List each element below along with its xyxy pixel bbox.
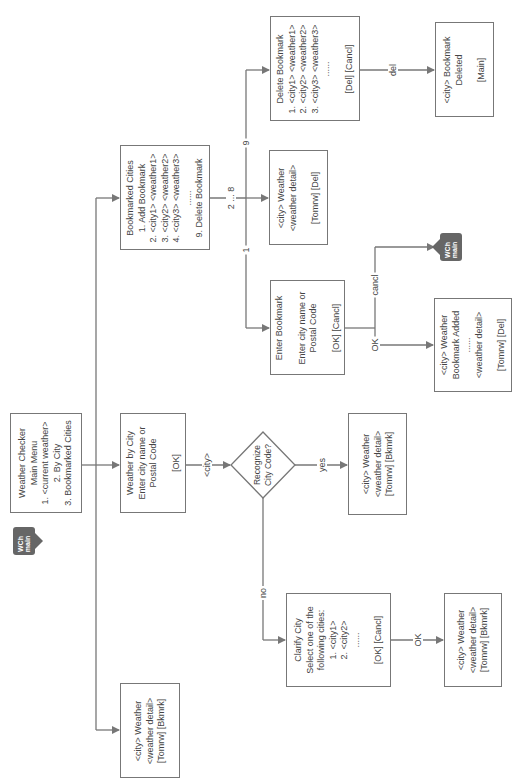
text-line: Enter city name or bbox=[296, 291, 308, 364]
text-line: Enter Bookmark bbox=[274, 291, 286, 364]
main-menu-box: Weather Checker Main Menu 1. <current we… bbox=[10, 413, 82, 513]
text-line: 9. Delete Bookmark bbox=[194, 153, 206, 242]
return-to-main-icon: WCh main bbox=[432, 232, 462, 262]
text-line: [Tomrw] [Bkmrk] bbox=[383, 431, 395, 498]
text-line: 3. <city2> <weather2> bbox=[159, 153, 171, 242]
text-line: 4. <city3> <weather3> bbox=[171, 153, 183, 242]
weather-by-city-box: Weather by City Enter city name or Posta… bbox=[120, 413, 186, 513]
text-line: <city> Bookmark bbox=[442, 36, 454, 103]
text-line: [OK] [Cancl] bbox=[373, 606, 385, 674]
text-line: <city> Weather bbox=[439, 311, 451, 380]
text-line bbox=[285, 291, 296, 364]
text-line: [Tomrw] [Del] bbox=[496, 311, 508, 380]
text-line: 1. <city1> bbox=[327, 606, 339, 674]
text-line: Postal Code bbox=[148, 426, 160, 499]
text-line: <city> Weather bbox=[276, 164, 288, 231]
text-line: [OK] bbox=[170, 426, 182, 499]
clarify-city-box: Clarify City Select one of the following… bbox=[286, 593, 391, 687]
text-line: [Main] bbox=[476, 36, 488, 103]
text-line: ...... bbox=[462, 311, 474, 380]
edge-label-del: del bbox=[388, 62, 398, 78]
edge-label-yes: yes bbox=[317, 456, 327, 474]
text-line: <weather detail> bbox=[372, 431, 384, 498]
edge-label-ok-clarify: OK bbox=[413, 631, 423, 648]
text-line: Main Menu bbox=[29, 420, 41, 506]
bookmarked-cities-box: Bookmarked Cities 1. Add Bookmark 2. <ci… bbox=[120, 145, 210, 250]
text-line: [Tomrw] [Bkmrk] bbox=[156, 697, 168, 764]
text-line: <weather detail> bbox=[144, 697, 156, 764]
text-line: Postal Code bbox=[308, 291, 320, 364]
text-line: 1. <city1> <weather1> bbox=[287, 24, 299, 113]
city-weather-ok-box: <city> Weather <weather detail> [Tomrw] … bbox=[444, 593, 502, 687]
icon-text-top: WCh bbox=[17, 531, 24, 557]
text-line: Recognize bbox=[252, 444, 263, 486]
text-line: Weather by City bbox=[125, 426, 137, 499]
text-line: 3. <city3> <weather3> bbox=[310, 24, 322, 113]
text-line: 2. <city2> bbox=[339, 606, 351, 674]
bookmark-added-box: <city> Weather Bookmark Added ...... <we… bbox=[434, 298, 512, 392]
edge-label-city: <city> bbox=[202, 451, 212, 479]
text-line: <city> Weather bbox=[360, 431, 372, 498]
text-line: [Tomrw] [Del] bbox=[310, 164, 322, 231]
text-line: following cities: bbox=[316, 606, 328, 674]
text-line bbox=[362, 606, 373, 674]
text-line: 1. Add Bookmark bbox=[136, 153, 148, 242]
text-line: [Tomrw] [Bkmrk] bbox=[479, 607, 491, 674]
text-line: <weather detail> bbox=[287, 164, 299, 231]
text-line: <city> Weather bbox=[133, 697, 145, 764]
text-line: 1. <current weather> bbox=[40, 420, 52, 506]
text-line: Bookmarked Cities bbox=[125, 153, 137, 242]
enter-bookmark-box: Enter Bookmark Enter city name or Postal… bbox=[270, 280, 345, 375]
text-line bbox=[299, 164, 310, 231]
text-line bbox=[159, 426, 170, 499]
text-line: <city> Weather bbox=[456, 607, 468, 674]
text-line: Clarify City bbox=[293, 606, 305, 674]
city-weather-yes-box: <city> Weather <weather detail> [Tomrw] … bbox=[348, 413, 407, 515]
text-line: <weather detail> bbox=[467, 607, 479, 674]
text-line: 2. <city2> <weather2> bbox=[298, 24, 310, 113]
edge-label-ok-bookmark: OK bbox=[370, 336, 380, 353]
bookmark-deleted-box: <city> Bookmark Deleted [Main] bbox=[435, 22, 494, 117]
text-line: ...... bbox=[321, 24, 333, 113]
text-line: 2. By City bbox=[52, 420, 64, 506]
edge-label-cancl: cancl bbox=[370, 272, 380, 297]
text-line bbox=[333, 24, 344, 113]
text-line: Delete Bookmark bbox=[275, 24, 287, 113]
text-line: 2. <city1> <weather1> bbox=[148, 153, 160, 242]
text-line bbox=[485, 311, 496, 380]
recognize-city-decision: Recognize City Code? bbox=[231, 432, 295, 498]
icon-text-top: WCh bbox=[444, 237, 451, 263]
edge-label-1: 1 bbox=[241, 245, 251, 254]
text-line bbox=[465, 36, 476, 103]
icon-text-bottom: main bbox=[451, 237, 458, 263]
text-line: City Code? bbox=[263, 444, 274, 486]
icon-text-bottom: main bbox=[24, 531, 31, 557]
text-line bbox=[319, 291, 330, 364]
text-line: ...... bbox=[350, 606, 362, 674]
text-line: 3. Bookmarked Cities bbox=[63, 420, 75, 506]
text-line: [OK] [Cancl] bbox=[330, 291, 342, 364]
text-line: <weather detail> bbox=[473, 311, 485, 380]
edge-label-no: no bbox=[258, 586, 268, 600]
edge-label-2-8: 2 ... 8 bbox=[226, 185, 236, 212]
delete-bookmark-box: Delete Bookmark 1. <city1> <weather1> 2.… bbox=[270, 16, 360, 121]
bookmark-weather-box: <city> Weather <weather detail> [Tomrw] … bbox=[269, 150, 328, 245]
text-line: Deleted bbox=[453, 36, 465, 103]
text-line: ...... bbox=[182, 153, 194, 242]
main-menu-reference-icon: WCh main bbox=[13, 526, 43, 556]
edge-label-9: 9 bbox=[241, 138, 251, 147]
current-weather-box: <city> Weather <weather detail> [Tomrw] … bbox=[120, 683, 180, 778]
text-line: Weather Checker bbox=[17, 420, 29, 506]
text-line: Enter city name or bbox=[136, 426, 148, 499]
text-line: [Del] [Cancl] bbox=[344, 24, 356, 113]
text-line: Select one of the bbox=[304, 606, 316, 674]
text-line: Bookmark Added bbox=[450, 311, 462, 380]
